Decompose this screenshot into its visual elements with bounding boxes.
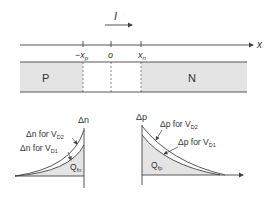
curve-label-vd2: Δn for VD2 bbox=[26, 129, 64, 140]
curve-label-vd1: Δp for VD1 bbox=[178, 137, 216, 148]
delta-n-axis-label: Δn bbox=[78, 115, 89, 125]
right-plot-delta-p: Δp Δp for VD2 Δp for VD1 Qfp bbox=[136, 112, 243, 185]
tick-neg-xp: −xp bbox=[75, 50, 89, 61]
delta-p-axis-label: Δp bbox=[136, 112, 147, 122]
curve-label-vd1: Δn for VD1 bbox=[20, 143, 58, 154]
pn-junction-diagram: I x −xp o xn P N Δn Δn for VD2 Δn for VD… bbox=[0, 0, 276, 198]
junction-bar: P N bbox=[20, 62, 247, 92]
x-axis: x −xp o xn bbox=[20, 39, 263, 61]
x-axis-label: x bbox=[256, 39, 263, 50]
current-label: I bbox=[114, 10, 117, 22]
curve-label-vd2: Δp for VD2 bbox=[160, 119, 198, 130]
p-region-label: P bbox=[42, 72, 49, 84]
n-region-label: N bbox=[188, 72, 196, 84]
tick-xn: xn bbox=[137, 50, 147, 61]
current-arrow: I bbox=[105, 10, 132, 25]
tick-origin: o bbox=[108, 50, 113, 60]
left-plot-delta-n: Δn Δn for VD2 Δn for VD1 Qfn bbox=[15, 115, 89, 188]
